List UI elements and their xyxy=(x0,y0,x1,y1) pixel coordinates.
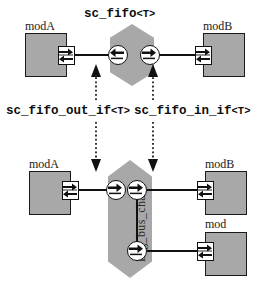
port-bottom-modb xyxy=(197,181,214,200)
caption-sc-fifo-out-if: sc_fifo_out_if<T> xyxy=(6,105,130,118)
caption-out-if-template: <T> xyxy=(111,105,130,117)
module-label-bottom-modb: modB xyxy=(205,158,234,170)
port-double-arrow-icon xyxy=(198,182,212,198)
caption-sc-fifo-in-if: sc_fifo_in_if<T> xyxy=(134,105,250,118)
caption-in-if-text: sc_fifo_in_if xyxy=(134,104,232,118)
interface-sc-fifo-in xyxy=(140,45,160,65)
interface-bus-right-upper xyxy=(127,180,147,200)
diagram-canvas: sc_fifo<T> modA modB xyxy=(0,0,268,283)
port-top-modb xyxy=(195,46,212,65)
port-double-arrow-icon xyxy=(198,243,212,259)
port-bottom-moda xyxy=(62,181,79,200)
port-double-arrow-icon xyxy=(196,47,210,63)
module-label-top-moda: modA xyxy=(25,20,55,32)
interface-sc-fifo-out xyxy=(108,45,128,65)
interface-bus-left xyxy=(106,180,126,200)
module-label-bottom-moda: modA xyxy=(29,158,59,170)
interface-right-arrow-icon xyxy=(107,181,123,197)
dotted-arrow-up-left xyxy=(91,64,101,100)
interface-left-arrow-icon xyxy=(109,46,125,62)
interface-right-arrow-icon xyxy=(128,181,144,197)
port-bottom-modc xyxy=(197,242,214,261)
module-label-bottom-modc: mod xyxy=(205,218,226,230)
caption-in-if-template: <T> xyxy=(232,105,251,117)
interface-right-arrow-icon xyxy=(141,46,157,62)
dotted-arrow-down-left xyxy=(91,122,101,172)
interface-right-arrow-icon xyxy=(128,242,144,258)
sc-fifo-title-template: <T> xyxy=(137,8,156,20)
caption-out-if-text: sc_fifo_out_if xyxy=(6,104,111,118)
sc-fifo-title-text: sc_fifo xyxy=(84,7,137,21)
module-label-top-modb: modB xyxy=(203,20,232,32)
port-top-moda xyxy=(58,46,75,65)
sc-fifo-title: sc_fifo<T> xyxy=(84,8,155,21)
interface-bus-right-lower xyxy=(127,241,147,261)
port-double-arrow-icon xyxy=(63,182,77,198)
dotted-arrow-down-right xyxy=(148,122,158,172)
port-double-arrow-icon xyxy=(59,47,73,63)
